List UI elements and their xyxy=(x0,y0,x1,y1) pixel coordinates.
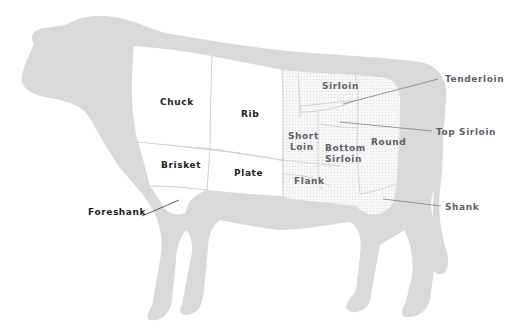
label-chuck: Chuck xyxy=(160,97,194,107)
label-sirloin: Sirloin xyxy=(322,81,359,91)
label-round: Round xyxy=(371,137,406,147)
label-brisket: Brisket xyxy=(161,160,201,170)
label-bottom-sirloin-line1: Bottom xyxy=(325,143,366,153)
rib-region xyxy=(210,56,283,160)
label-shank: Shank xyxy=(445,202,480,212)
label-short-loin-line1: Short xyxy=(288,131,319,141)
label-short-loin-line2: Loin xyxy=(290,142,314,152)
label-foreshank: Foreshank xyxy=(88,207,147,217)
label-plate: Plate xyxy=(234,168,263,178)
label-rib: Rib xyxy=(241,109,259,119)
label-bottom-sirloin-line2: Sirloin xyxy=(325,154,362,164)
label-flank: Flank xyxy=(294,176,325,186)
beef-cuts-diagram: Chuck Rib Brisket Plate Foreshank Sirloi… xyxy=(0,0,521,329)
label-top-sirloin: Top Sirloin xyxy=(436,127,496,137)
label-tenderloin: Tenderloin xyxy=(445,74,504,84)
